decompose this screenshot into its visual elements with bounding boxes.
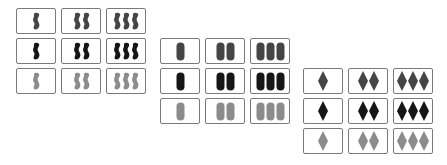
card-oval-dark-2[interactable] <box>205 68 245 94</box>
squiggle-icon <box>32 42 40 60</box>
card-oval-light-3[interactable] <box>250 98 290 124</box>
diamond-icon <box>408 101 418 121</box>
diamond-icon <box>419 131 429 151</box>
oval-icon <box>276 72 285 91</box>
oval-group <box>160 38 290 124</box>
card-diamond-dark-1[interactable] <box>303 98 343 124</box>
card-squiggle-dark-2[interactable] <box>61 38 101 64</box>
card-oval-medium-2[interactable] <box>205 38 245 64</box>
diamond-icon <box>397 71 407 91</box>
card-oval-dark-3[interactable] <box>250 68 290 94</box>
squiggle-icon <box>122 42 130 60</box>
oval-icon <box>256 72 265 91</box>
squiggle-icon <box>82 12 90 30</box>
diamond-icon <box>408 131 418 151</box>
oval-icon <box>176 42 185 61</box>
card-squiggle-light-3[interactable] <box>106 68 146 94</box>
diamond-icon <box>369 131 379 151</box>
squiggle-icon <box>73 12 81 30</box>
diamond-icon <box>318 131 328 151</box>
diamond-icon <box>397 101 407 121</box>
card-diamond-light-3[interactable] <box>393 128 433 154</box>
card-oval-light-2[interactable] <box>205 98 245 124</box>
oval-icon <box>176 102 185 121</box>
squiggle-group <box>16 8 146 94</box>
card-oval-dark-1[interactable] <box>160 68 200 94</box>
squiggle-icon <box>122 12 130 30</box>
diamond-icon <box>419 71 429 91</box>
diamond-icon <box>369 101 379 121</box>
card-squiggle-light-1[interactable] <box>16 68 56 94</box>
diamond-icon <box>358 131 368 151</box>
card-diamond-medium-3[interactable] <box>393 68 433 94</box>
squiggle-icon <box>32 72 40 90</box>
card-diamond-dark-2[interactable] <box>348 98 388 124</box>
card-oval-medium-1[interactable] <box>160 38 200 64</box>
diamond-icon <box>397 131 407 151</box>
card-squiggle-medium-2[interactable] <box>61 8 101 34</box>
oval-icon <box>276 102 285 121</box>
squiggle-icon <box>73 72 81 90</box>
squiggle-icon <box>73 42 81 60</box>
oval-icon <box>216 102 225 121</box>
squiggle-icon <box>113 42 121 60</box>
oval-icon <box>216 72 225 91</box>
card-diamond-dark-3[interactable] <box>393 98 433 124</box>
diamond-icon <box>318 101 328 121</box>
squiggle-icon <box>32 12 40 30</box>
oval-icon <box>226 102 235 121</box>
diamond-icon <box>408 71 418 91</box>
oval-icon <box>216 42 225 61</box>
squiggle-icon <box>113 72 121 90</box>
oval-icon <box>176 72 185 91</box>
squiggle-icon <box>131 42 139 60</box>
card-diamond-medium-1[interactable] <box>303 68 343 94</box>
card-oval-light-1[interactable] <box>160 98 200 124</box>
diamond-icon <box>358 71 368 91</box>
card-diamond-light-1[interactable] <box>303 128 343 154</box>
squiggle-icon <box>82 42 90 60</box>
diamond-group <box>303 68 433 154</box>
oval-icon <box>226 42 235 61</box>
oval-icon <box>226 72 235 91</box>
oval-icon <box>266 102 275 121</box>
card-squiggle-dark-3[interactable] <box>106 38 146 64</box>
squiggle-icon <box>82 72 90 90</box>
card-squiggle-medium-3[interactable] <box>106 8 146 34</box>
oval-icon <box>266 72 275 91</box>
card-squiggle-medium-1[interactable] <box>16 8 56 34</box>
diamond-icon <box>358 101 368 121</box>
oval-icon <box>276 42 285 61</box>
card-diamond-light-2[interactable] <box>348 128 388 154</box>
oval-icon <box>256 42 265 61</box>
card-oval-medium-3[interactable] <box>250 38 290 64</box>
card-squiggle-dark-1[interactable] <box>16 38 56 64</box>
diamond-icon <box>369 71 379 91</box>
card-diamond-medium-2[interactable] <box>348 68 388 94</box>
card-squiggle-light-2[interactable] <box>61 68 101 94</box>
oval-icon <box>256 102 265 121</box>
squiggle-icon <box>122 72 130 90</box>
oval-icon <box>266 42 275 61</box>
diamond-icon <box>419 101 429 121</box>
squiggle-icon <box>131 72 139 90</box>
squiggle-icon <box>131 12 139 30</box>
squiggle-icon <box>113 12 121 30</box>
diamond-icon <box>318 71 328 91</box>
